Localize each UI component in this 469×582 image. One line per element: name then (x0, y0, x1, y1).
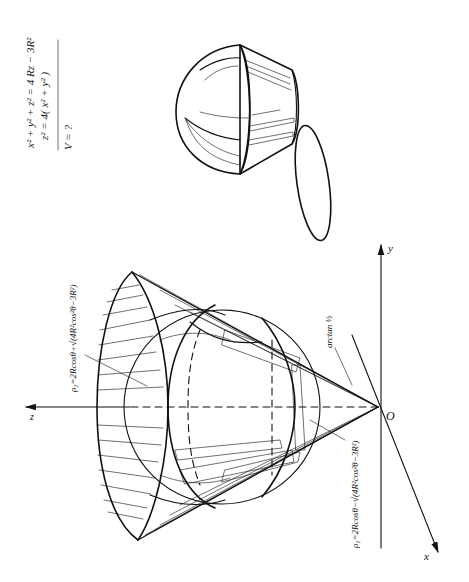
origin-label: O (386, 409, 395, 423)
stippled-cross-section (289, 123, 337, 242)
geometry-figure: z y x O (0, 0, 469, 582)
axes: z y x O (26, 242, 438, 562)
rho2-label: ρ₂=2Rcosθ+√(4R²cos²θ−3R²) (68, 284, 78, 393)
arctan-leader (335, 348, 352, 385)
rho2-leader (85, 355, 147, 386)
main-cone-sphere-figure (97, 272, 378, 540)
x-axis (352, 335, 438, 552)
arctan-label: arctan ½ (324, 316, 334, 348)
inset-dome (176, 45, 240, 174)
rho1-label: ρ₁=2Rcosθ−√(4R²cos²θ−3R²) (350, 440, 360, 549)
axis-z-label: z (29, 411, 34, 422)
axis-y-label: y (387, 242, 393, 254)
inset-solid-figure (176, 45, 337, 243)
inset-cone (240, 45, 298, 174)
axis-x-label: x (423, 550, 429, 562)
